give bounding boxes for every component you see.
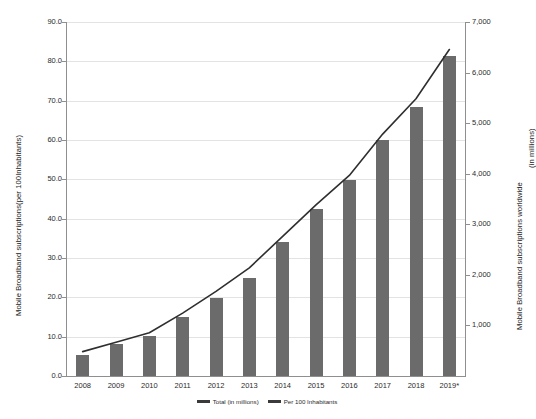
y-axis-right-tick-label: 1,000 xyxy=(472,321,491,329)
legend-label-total: Total (in millions) xyxy=(213,398,259,405)
y-axis-right-tick-mark xyxy=(466,174,470,175)
y-axis-left-tick-label: 80.0 xyxy=(47,57,62,65)
x-axis-tick-label: 2019* xyxy=(429,381,469,390)
y-axis-left-title: Mobile Broadband subscriptions(per 100In… xyxy=(14,135,23,316)
y-axis-right-tick-mark xyxy=(466,325,470,326)
y-axis-left-tick-label: 0.0 xyxy=(52,372,62,380)
y-axis-left-tick-label: 90.0 xyxy=(47,18,62,26)
y-axis-right-tick-label: 3,000 xyxy=(472,220,491,228)
y-axis-right-tick-mark xyxy=(466,275,470,276)
y-axis-left-tick-label: 30.0 xyxy=(47,254,62,262)
y-axis-right-tick-mark xyxy=(466,22,470,23)
y-axis-left-tick-label: 50.0 xyxy=(47,175,62,183)
chart-legend: Total (in millions) Per 100 Inhabitants xyxy=(0,398,534,405)
y-axis-right-tick-mark xyxy=(466,73,470,74)
y-axis-right-title: Mobile Broadband subscriptions worldwide xyxy=(515,182,524,330)
y-axis-right-tick-label: 6,000 xyxy=(472,69,491,77)
y-axis-right-tick-mark xyxy=(466,123,470,124)
y-axis-left-tick-label: 70.0 xyxy=(47,97,62,105)
y-axis-right-tick-mark xyxy=(466,224,470,225)
legend-item-total: Total (in millions) xyxy=(197,398,259,405)
y-axis-left-tick-label: 40.0 xyxy=(47,215,62,223)
plot-area xyxy=(66,22,466,376)
y-axis-left-tick-label: 10.0 xyxy=(47,333,62,341)
legend-swatch-total-icon xyxy=(197,400,210,403)
y-axis-right-tick-label: 7,000 xyxy=(472,18,491,26)
y-axis-right-tick-label: 5,000 xyxy=(472,119,491,127)
line-series-per-100-inhabitants xyxy=(66,22,466,376)
y-axis-left-tick-label: 60.0 xyxy=(47,136,62,144)
y-axis-left-tick-label: 20.0 xyxy=(47,293,62,301)
legend-item-per-100-inhabitants: Per 100 Inhabitants xyxy=(268,398,338,405)
legend-label-per-100-inhabitants: Per 100 Inhabitants xyxy=(284,398,338,405)
gridline xyxy=(66,376,466,377)
y-axis-right-tick-label: 2,000 xyxy=(472,271,491,279)
legend-swatch-per-100-icon xyxy=(268,400,281,403)
y-axis-right-tick-label: 4,000 xyxy=(472,170,491,178)
y-axis-right-units: (in millions) xyxy=(527,128,536,168)
